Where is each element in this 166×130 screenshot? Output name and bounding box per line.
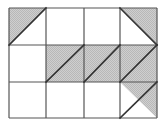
grid-diagram-svg bbox=[0, 0, 166, 130]
grid-figure bbox=[0, 0, 166, 130]
